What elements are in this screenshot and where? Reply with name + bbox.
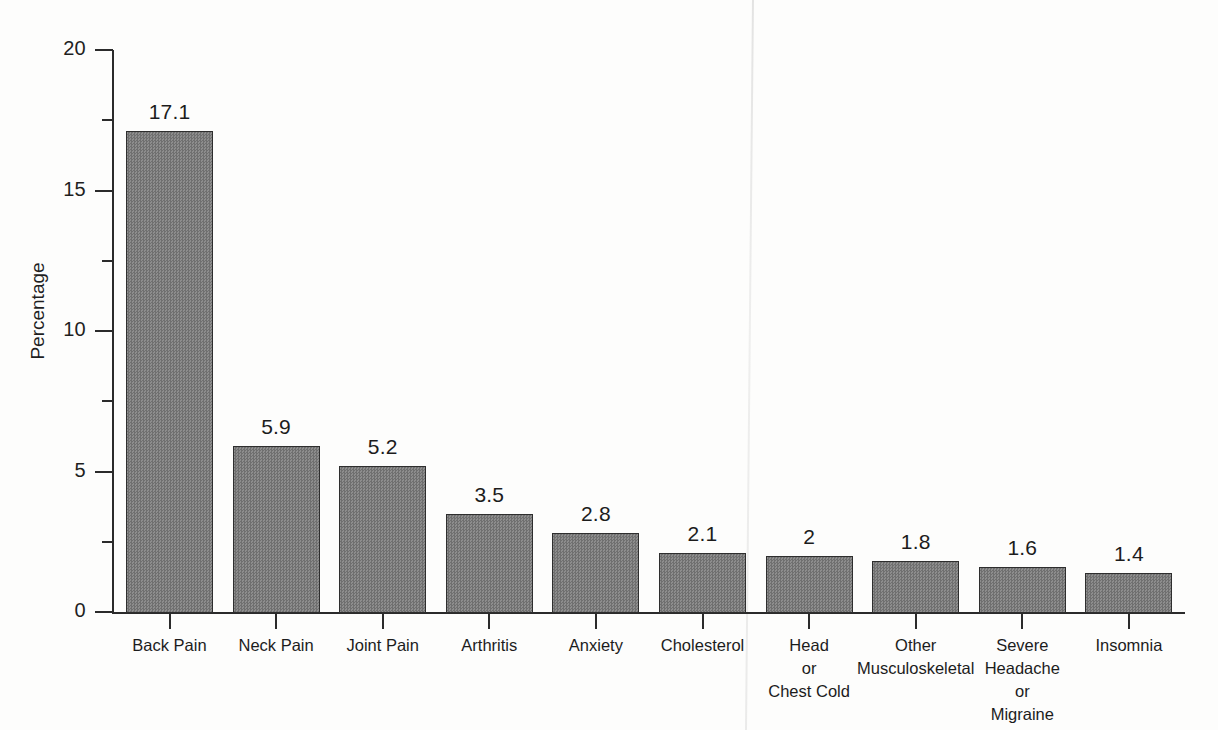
x-axis-tick: [595, 614, 597, 629]
y-axis-title: Percentage: [27, 231, 49, 391]
y-axis-tick-label: 20: [26, 37, 86, 60]
x-axis-tick: [488, 614, 490, 629]
bar: [126, 131, 213, 613]
bar: [446, 514, 533, 613]
x-axis-tick: [1128, 614, 1130, 629]
y-axis-tick-label: 15: [26, 178, 86, 201]
bar-value-label: 1.4: [1065, 542, 1192, 566]
x-axis-tick: [808, 614, 810, 629]
bar: [979, 567, 1066, 613]
bar-value-label: 17.1: [106, 100, 233, 124]
bar-value-label: 5.2: [319, 435, 446, 459]
x-axis-tick: [1021, 614, 1023, 629]
bar: [872, 561, 959, 613]
x-axis-tick: [382, 614, 384, 629]
bar: [339, 466, 426, 613]
y-axis-minor-tick: [102, 260, 113, 262]
y-axis-major-tick: [95, 471, 113, 473]
x-axis-tick: [915, 614, 917, 629]
y-axis-major-tick: [95, 49, 113, 51]
bar: [1085, 573, 1172, 613]
y-axis-minor-tick: [102, 400, 113, 402]
y-axis-tick-label: 10: [26, 318, 86, 341]
y-axis-minor-tick: [102, 541, 113, 543]
y-axis-major-tick: [95, 190, 113, 192]
chart-page: Percentage 05101520 17.15.95.23.52.82.12…: [0, 0, 1218, 730]
y-axis-tick-label: 5: [26, 459, 86, 482]
x-axis-tick: [169, 614, 171, 629]
y-axis-tick-label: 0: [26, 599, 86, 622]
bar: [552, 533, 639, 613]
x-axis-tick: [702, 614, 704, 629]
x-axis-tick: [275, 614, 277, 629]
bar: [766, 556, 853, 613]
y-axis-line: [112, 50, 114, 614]
bar-chart-plot-area: Percentage 05101520 17.15.95.23.52.82.12…: [0, 0, 1218, 730]
bar: [233, 446, 320, 613]
bar: [659, 553, 746, 613]
y-axis-major-tick: [95, 330, 113, 332]
x-axis-category-label: Insomnia: [1047, 634, 1210, 657]
y-axis-major-tick: [95, 611, 113, 613]
